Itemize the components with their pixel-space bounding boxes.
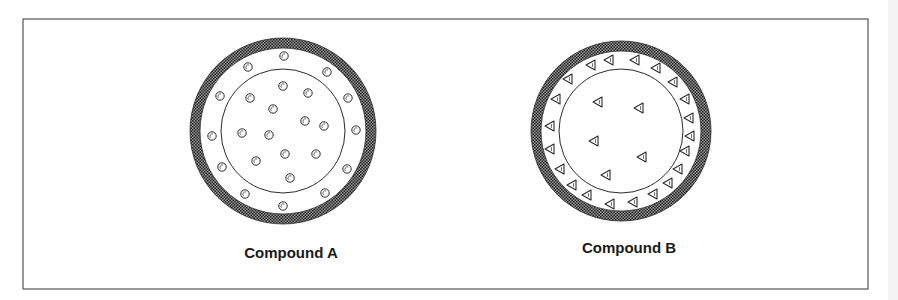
triangle-particle-icon (634, 103, 643, 113)
triangle-particle-icon (680, 94, 689, 104)
sphere-particle-icon (241, 190, 249, 198)
sphere-particle-icon (252, 157, 260, 165)
triangle-particle-icon (589, 136, 598, 146)
triangle-particle-icon (545, 121, 554, 131)
triangle-particle-icon (651, 63, 660, 73)
figure-frame (23, 19, 868, 289)
triangle-particle-icon (604, 55, 613, 65)
triangle-particle-icon (586, 60, 595, 70)
sphere-particle-icon (344, 94, 352, 102)
sphere-particle-icon (208, 132, 216, 140)
sphere-particle-icon (218, 163, 226, 171)
triangle-particle-icon (567, 180, 576, 190)
sphere-particle-icon (216, 92, 224, 100)
sphere-particle-icon (323, 68, 331, 76)
inner-ring-edge (541, 51, 701, 211)
triangle-particle-icon (685, 131, 694, 141)
compound-b-label: Compound B (582, 239, 676, 256)
triangle-particle-icon (684, 113, 693, 123)
sphere-particle-icon (279, 202, 287, 210)
inner-ring-edge (200, 48, 366, 214)
triangle-particle-icon (648, 189, 657, 199)
triangle-particle-icon (555, 164, 564, 174)
sphere-particle-icon (352, 126, 360, 134)
triangle-particle-icon (582, 190, 591, 200)
sphere-particle-icon (281, 150, 289, 158)
core-boundary (559, 69, 683, 193)
sphere-particle-icon (312, 150, 320, 158)
triangle-particle-icon (628, 197, 637, 207)
sphere-particle-icon (301, 117, 309, 125)
sphere-particle-icon (246, 94, 254, 102)
triangle-particle-icon (605, 199, 614, 209)
triangle-particle-icon (637, 152, 646, 162)
compound-b-particle (531, 41, 711, 221)
compound-a-particle (190, 38, 376, 224)
triangle-particle-icon (680, 146, 689, 156)
sphere-particle-icon (321, 189, 329, 197)
triangle-particle-icon (563, 74, 572, 84)
sphere-particle-icon (279, 82, 287, 90)
compound-a-label: Compound A (244, 244, 338, 261)
outer-shell-ring (536, 46, 706, 216)
diagram-figure: Compound A Compound B (0, 0, 898, 300)
sphere-particle-icon (244, 63, 252, 71)
sphere-particle-icon (320, 122, 328, 130)
triangle-particle-icon (668, 77, 677, 87)
triangle-particle-icon (601, 170, 610, 180)
compound-comparison-diagram (0, 0, 898, 300)
triangle-particle-icon (630, 55, 639, 65)
triangle-particle-icon (545, 144, 554, 154)
sphere-particle-icon (265, 131, 273, 139)
sphere-particle-icon (343, 165, 351, 173)
triangle-particle-icon (551, 94, 560, 104)
sphere-particle-icon (304, 89, 312, 97)
triangle-particle-icon (593, 97, 602, 107)
sphere-particle-icon (280, 52, 288, 60)
triangle-particle-icon (673, 164, 682, 174)
triangle-particle-icon (663, 178, 672, 188)
page-edge-shade (888, 0, 898, 300)
sphere-particle-icon (286, 174, 294, 182)
sphere-particle-icon (238, 129, 246, 137)
sphere-particle-icon (269, 105, 277, 113)
